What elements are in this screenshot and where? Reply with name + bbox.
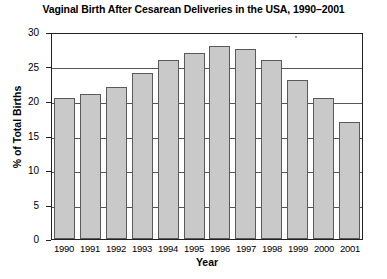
x-tick-label: 1997: [233, 242, 259, 256]
bar: [184, 53, 205, 239]
y-axis-tick-labels: 051015202530: [0, 33, 44, 240]
bar: [339, 122, 360, 239]
x-tick-label: 1999: [285, 242, 311, 256]
bar: [80, 94, 101, 239]
y-tick-label: 10: [0, 166, 44, 176]
x-tick-label: 1995: [181, 242, 207, 256]
y-tick-label: 25: [0, 63, 44, 73]
bar: [132, 73, 153, 239]
y-tick-label: 20: [0, 97, 44, 107]
x-axis-tick-labels: 1990199119921993199419951996199719981999…: [51, 242, 363, 256]
x-tick-label: 2001: [337, 242, 363, 256]
bar-slot: [310, 34, 336, 239]
bar-slot: [284, 34, 310, 239]
bar: [235, 49, 256, 239]
x-tick-label: 1992: [103, 242, 129, 256]
bar-slot: [78, 34, 104, 239]
y-tick-label: 30: [0, 28, 44, 38]
x-axis-title: Year: [51, 256, 363, 268]
x-tick-label: 1991: [77, 242, 103, 256]
bar: [287, 80, 308, 239]
y-tick-label: 5: [0, 201, 44, 211]
x-tick-label: 2000: [311, 242, 337, 256]
bar-slot: [259, 34, 285, 239]
bar: [261, 60, 282, 239]
x-tick-label: 1998: [259, 242, 285, 256]
bar-slot: [52, 34, 78, 239]
bar: [158, 60, 179, 239]
x-tick-label: 1996: [207, 242, 233, 256]
bars-layer: [52, 34, 362, 239]
bar-slot: [104, 34, 130, 239]
x-tick-label: 1993: [129, 242, 155, 256]
bar-slot: [129, 34, 155, 239]
x-tick-label: 1990: [51, 242, 77, 256]
bar: [209, 46, 230, 239]
bar-slot: [181, 34, 207, 239]
bar-slot: [207, 34, 233, 239]
bar-slot: [155, 34, 181, 239]
y-tick-label: 15: [0, 132, 44, 142]
y-tick-label: 0: [0, 235, 44, 245]
chart-title: Vaginal Birth After Cesarean Deliveries …: [0, 3, 387, 15]
bar-chart-figure: Vaginal Birth After Cesarean Deliveries …: [0, 0, 387, 279]
x-tick-label: 1994: [155, 242, 181, 256]
bar: [54, 98, 75, 239]
plot-area: [51, 33, 363, 240]
artifact-speck: [295, 36, 297, 38]
bar: [106, 87, 127, 239]
bar-slot: [233, 34, 259, 239]
bar-slot: [336, 34, 362, 239]
bar: [313, 98, 334, 239]
y-tick-mark: [46, 240, 51, 241]
